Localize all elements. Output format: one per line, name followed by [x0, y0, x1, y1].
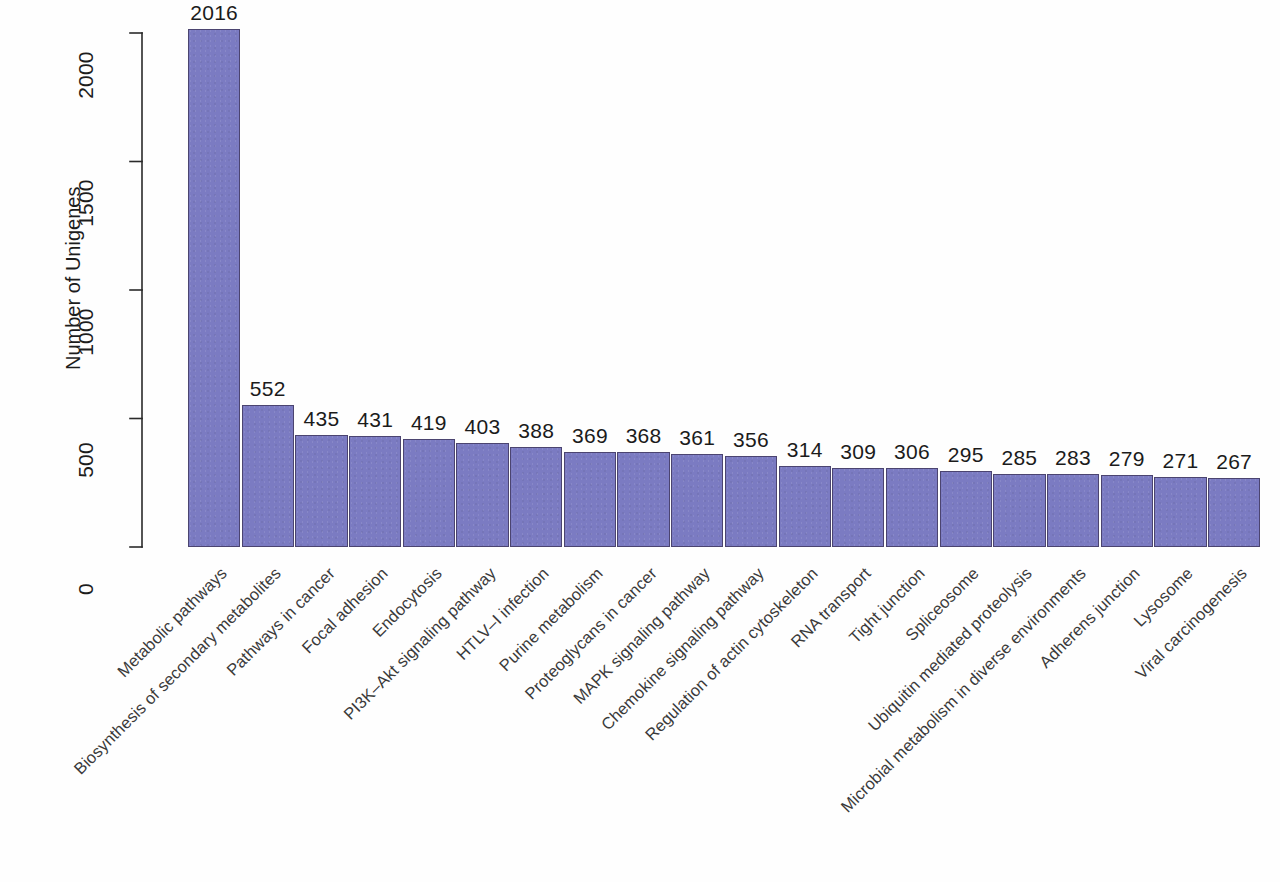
- bar: [188, 29, 240, 547]
- bar: [1154, 477, 1206, 547]
- y-tick-label-500: 500: [74, 420, 98, 500]
- bar-value-label: 267: [1196, 450, 1272, 474]
- y-tick-label-1500: 1500: [74, 163, 98, 243]
- bar: [564, 452, 616, 547]
- bar-value-label: 2016: [176, 1, 252, 25]
- bar: [779, 466, 831, 547]
- y-tick-label-1000: 1000: [74, 292, 98, 372]
- bar: [456, 443, 508, 547]
- kegg-pathway-bar-chart-figure: Number of Unigenes 2000 1500 1000 500 0 …: [0, 0, 1280, 882]
- bar: [940, 471, 992, 547]
- bar: [1047, 474, 1099, 547]
- bar: [510, 447, 562, 547]
- bar: [993, 474, 1045, 547]
- plot-area: Number of Unigenes 2000 1500 1000 500 0 …: [0, 0, 1280, 882]
- bar: [1208, 478, 1260, 547]
- bar: [617, 452, 669, 547]
- bar: [349, 436, 401, 547]
- bar: [886, 468, 938, 547]
- bar: [832, 468, 884, 547]
- bar: [725, 456, 777, 547]
- bar: [1101, 475, 1153, 547]
- bar-value-label: 552: [230, 377, 306, 401]
- bar: [403, 439, 455, 547]
- bar: [671, 454, 723, 547]
- y-tick-label-2000: 2000: [74, 35, 98, 115]
- bar: [295, 435, 347, 547]
- y-tick-label-0: 0: [74, 549, 98, 629]
